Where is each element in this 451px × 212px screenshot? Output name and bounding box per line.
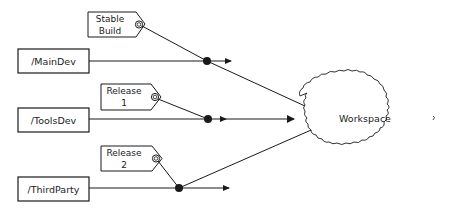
- junction-dot-toolsdev: [204, 115, 212, 123]
- branch-label-thirdparty: /ThirdParty: [28, 184, 80, 195]
- branch-label-toolsdev: /ToolsDev: [31, 115, 77, 126]
- stable-to-workspace: [207, 61, 318, 112]
- stable-build-connector: [142, 26, 207, 61]
- svg-text:1: 1: [121, 98, 127, 108]
- junction-dot-thirdparty: [175, 184, 183, 192]
- svg-text:Release: Release: [106, 86, 142, 96]
- branch-box-thirdparty[interactable]: /ThirdParty: [18, 177, 89, 201]
- branch-box-toolsdev[interactable]: /ToolsDev: [18, 108, 89, 132]
- workspace-cloud[interactable]: Workspace: [299, 70, 434, 145]
- label-tag-release-2[interactable]: Release 2: [101, 146, 162, 171]
- svg-text:Release: Release: [106, 148, 142, 158]
- release2-connector: [158, 161, 179, 188]
- workspace-label: Workspace: [339, 113, 391, 124]
- branch-box-maindev[interactable]: /MainDev: [18, 49, 89, 73]
- release1-connector: [158, 99, 208, 119]
- label-tag-release-1[interactable]: Release 1: [101, 84, 161, 110]
- release2-to-workspace: [179, 127, 318, 188]
- svg-text:Build: Build: [99, 26, 122, 36]
- label-tag-stable-build[interactable]: Stable Build: [88, 12, 145, 37]
- junction-dot-maindev: [203, 57, 211, 65]
- diagram-canvas: /MainDev /ToolsDev /ThirdParty Stable Bu…: [0, 0, 451, 212]
- svg-text:2: 2: [121, 160, 127, 170]
- svg-text:Stable: Stable: [96, 14, 125, 24]
- branch-label-maindev: /MainDev: [31, 56, 76, 67]
